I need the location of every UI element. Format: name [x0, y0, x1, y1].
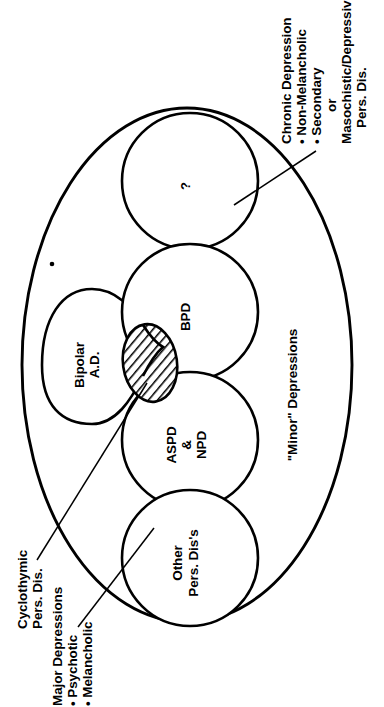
- label-unknown-question-mark: ?: [178, 182, 193, 190]
- label-aspd: ASPD: [164, 426, 179, 463]
- callout-major-line1: Major Depressions: [50, 587, 65, 706]
- diagram-canvas: "Minor" Depressions ? BPD ASPD & NPD Oth…: [0, 0, 384, 707]
- callout-major-line3: • Melancholic: [80, 621, 95, 706]
- region-unknown: [122, 113, 258, 249]
- callout-major-line2: • Psychotic: [65, 634, 80, 706]
- venn-diagram-figure: "Minor" Depressions ? BPD ASPD & NPD Oth…: [0, 0, 384, 707]
- label-bpd: BPD: [178, 303, 193, 332]
- label-other-pers-dis-line1: Other: [170, 544, 185, 580]
- callout-chronic-line2: • Non-Melancholic: [294, 29, 309, 144]
- label-aspd-npd-ampersand: &: [179, 440, 194, 450]
- callout-chronic-line1: Chronic Depression: [279, 18, 294, 144]
- label-bipolar-ad-line2: A.D.: [87, 352, 102, 379]
- callout-chronic-line4: or: [324, 98, 339, 112]
- print-speck: [50, 262, 55, 267]
- callout-chronic-line3: • Secondary: [309, 67, 324, 144]
- callout-chronic-line5: Masochistic/Depressive: [339, 0, 354, 144]
- callout-cyclothymic-line1: Cyclothymic: [15, 549, 30, 629]
- label-npd: NPD: [194, 431, 209, 460]
- callout-chronic-line6: Pers. Dis.: [354, 67, 369, 128]
- label-other-pers-dis-line2: Pers. Dis's: [186, 529, 201, 596]
- label-minor-depressions: "Minor" Depressions: [285, 329, 300, 461]
- label-bipolar-ad-line1: Bipolar: [72, 341, 87, 388]
- callout-cyclothymic-line2: Pers. Dis.: [30, 568, 45, 629]
